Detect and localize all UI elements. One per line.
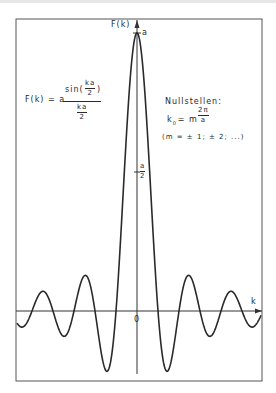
denominator-fraction: ka 2: [77, 104, 87, 121]
half-den: 2: [140, 173, 145, 180]
k-subscript: 0: [173, 120, 177, 126]
f-axis-arrow-icon: [135, 20, 140, 28]
den-num: ka: [77, 104, 87, 111]
plot-frame: [16, 19, 262, 381]
x-axis-label: k: [251, 298, 257, 306]
half-num: a: [140, 163, 145, 170]
zeros-den: a: [201, 117, 206, 124]
origin-label: 0: [134, 316, 140, 324]
y-axis-label: F(k): [111, 21, 130, 29]
sinc-plot: [0, 0, 276, 393]
formula-lhs: F(k) = a: [25, 96, 65, 104]
den-den: 2: [79, 114, 84, 121]
zeros-eq-lhs: k0= m: [167, 116, 198, 126]
sin-label: sin(: [65, 86, 84, 94]
main-fraction-bar: [63, 101, 101, 102]
k-axis-arrow-icon: [255, 309, 262, 314]
zeros-condition: (m = ± 1; ± 2; ...): [162, 134, 245, 141]
zeros-num: 2π: [198, 107, 209, 114]
eq-mid: = m: [178, 115, 198, 124]
peak-label: a: [142, 29, 148, 37]
formula-numerator: sin( ka 2 ): [63, 80, 101, 100]
inner-num: ka: [85, 80, 95, 87]
close-paren: ): [97, 86, 101, 94]
zeros-fraction: 2π a: [198, 107, 209, 124]
zeros-title: Nullstellen:: [165, 98, 222, 106]
half-label: a 2: [140, 163, 145, 180]
formula-fraction: sin( ka 2 ) ka 2: [63, 80, 101, 103]
inner-den: 2: [87, 90, 92, 97]
numerator-inner-fraction: ka 2: [85, 80, 95, 97]
